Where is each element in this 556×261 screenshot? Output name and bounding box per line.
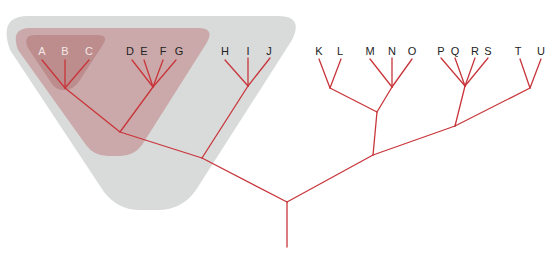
taxon-label-a: A: [38, 45, 45, 57]
taxon-label-k: K: [315, 45, 322, 57]
taxon-label-q: Q: [451, 45, 460, 57]
taxon-label-n: N: [388, 45, 396, 57]
taxon-label-m: M: [365, 45, 374, 57]
taxon-label-j: J: [266, 45, 272, 57]
taxon-label-e: E: [140, 45, 147, 57]
taxon-label-d: D: [126, 45, 134, 57]
taxon-label-f: F: [160, 45, 167, 57]
taxon-label-t: T: [515, 45, 522, 57]
tree-graphic: [0, 0, 556, 261]
phylogenetic-tree-diagram: A B C D E F G H I J K L M N O P Q R S T …: [0, 0, 556, 261]
taxon-label-h: H: [221, 45, 229, 57]
taxon-label-s: S: [484, 45, 491, 57]
taxon-label-u: U: [537, 45, 545, 57]
taxon-label-o: O: [408, 45, 417, 57]
taxon-label-g: G: [175, 45, 184, 57]
taxon-label-i: I: [246, 45, 249, 57]
taxon-label-c: C: [85, 45, 93, 57]
taxon-label-p: P: [437, 45, 444, 57]
taxon-label-l: L: [337, 45, 343, 57]
taxon-label-b: B: [61, 45, 68, 57]
taxon-label-r: R: [471, 45, 479, 57]
